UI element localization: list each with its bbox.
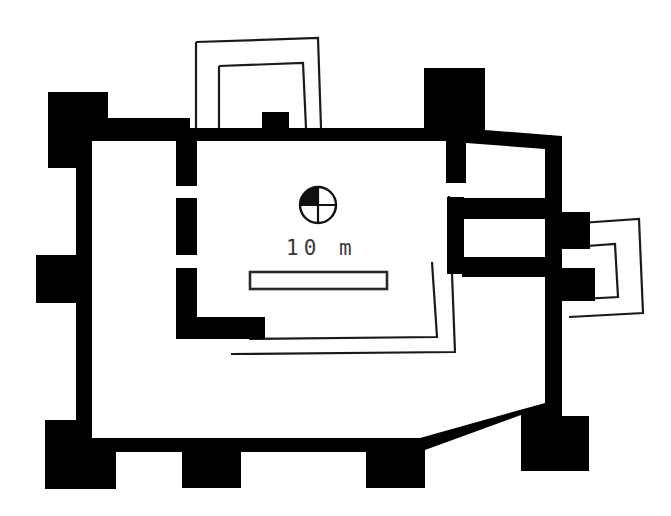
inner-wall-west-middle bbox=[176, 198, 197, 255]
scale-bar-label: 10 m bbox=[286, 236, 357, 260]
north-arrow-icon bbox=[300, 187, 336, 223]
inner-wall-east-lower bbox=[447, 197, 464, 274]
inner-wall-east-upper bbox=[446, 141, 466, 183]
inner-wall-south-stub bbox=[176, 317, 265, 339]
floor-plan-drawing: 10 m bbox=[0, 0, 671, 516]
scale-bar-box bbox=[250, 272, 387, 289]
site-plan-figure: 10 m bbox=[0, 0, 671, 516]
inner-wall-west-upper bbox=[176, 141, 197, 186]
